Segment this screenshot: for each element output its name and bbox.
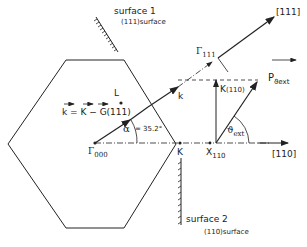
- gamma000-label: Γ000: [88, 147, 108, 159]
- direction-111-label: [111]: [276, 8, 300, 17]
- alpha-label: α: [123, 124, 130, 134]
- k-vector-label: k: [178, 92, 183, 101]
- p-ext-label: Pϑext: [268, 73, 289, 86]
- diagram-lines: [0, 0, 307, 247]
- brillouin-hexagon: [8, 60, 176, 228]
- surface2-label: surface 2: [186, 215, 228, 224]
- k-equation-label: k = K − G(111): [62, 108, 131, 117]
- surface1-label: surface 1: [114, 7, 156, 16]
- point-L-label: L: [114, 89, 119, 98]
- point-K-label: K: [177, 148, 183, 157]
- theta-ext-label: ϑext: [227, 126, 244, 138]
- direction-110-label: [110]: [272, 150, 296, 159]
- point-X-label: X110: [206, 148, 226, 160]
- k-parallel-label: K(110): [220, 85, 245, 94]
- diagram-canvas: surface 1 (111)surface [111] Γ111 Pϑext …: [0, 0, 307, 247]
- alpha-value-label: = 35.2°: [135, 126, 162, 133]
- gamma111-label: Γ111: [196, 47, 216, 59]
- surface2-plane-label: (110)surface: [204, 229, 249, 236]
- surface1-plane-label: (111)surface: [121, 19, 166, 26]
